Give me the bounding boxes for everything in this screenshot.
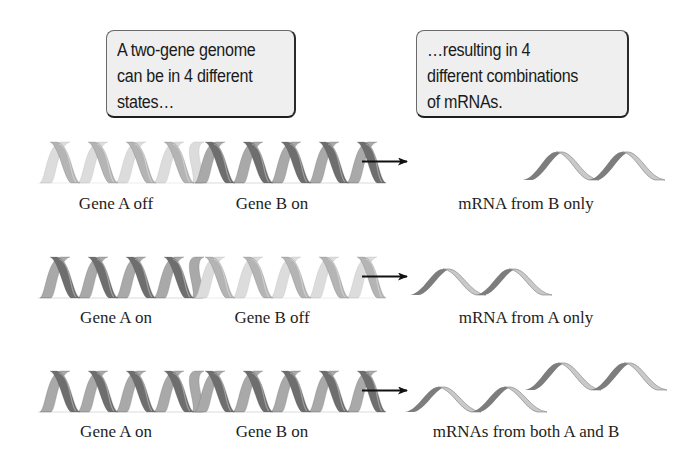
row-gene-a-on-gene-b-off — [38, 257, 552, 298]
gene-a-label: Gene A off — [79, 194, 153, 214]
row-gene-a-on-gene-b-on — [38, 363, 667, 412]
gene-b-label: Gene B off — [234, 308, 309, 328]
diagram-artwork — [0, 0, 690, 460]
mrna-label: mRNAs from both A and B — [433, 422, 620, 442]
gene-b-helix — [193, 257, 386, 298]
gene-b-label: Gene B on — [236, 422, 309, 442]
row-gene-a-off-gene-b-on — [38, 142, 665, 183]
gene-a-label: Gene A on — [80, 422, 152, 442]
mrna-a-ribbon — [410, 269, 552, 295]
gene-a-helix — [38, 142, 204, 183]
mrna-b-ribbon — [523, 152, 665, 180]
mrna-label: mRNA from B only — [458, 194, 594, 214]
gene-b-helix — [193, 142, 386, 183]
mrna-label: mRNA from A only — [459, 308, 594, 328]
mrna-b-ribbon — [525, 363, 667, 390]
gene-a-helix — [38, 257, 204, 298]
gene-b-label: Gene B on — [236, 194, 309, 214]
gene-b-helix — [193, 371, 386, 412]
gene-a-helix — [38, 371, 204, 412]
mrna-a-ribbon — [405, 387, 547, 412]
gene-a-label: Gene A on — [80, 308, 152, 328]
